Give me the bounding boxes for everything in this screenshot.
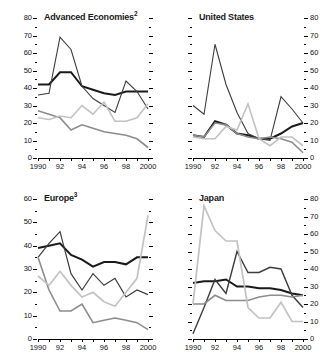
panel-title-text: Japan (199, 193, 224, 203)
x-tick-label: 2000 (132, 344, 164, 352)
x-tick-label: 2000 (287, 344, 319, 352)
series-line-2 (193, 252, 303, 334)
y-tick-label: 70 (310, 32, 329, 40)
y-tick-label: 70 (310, 213, 329, 221)
panel-title-text: Europe (44, 193, 74, 203)
y-tick-label: 20 (310, 119, 329, 127)
y-tick-label: 30 (310, 102, 329, 110)
panel-title-footnote-marker: 2 (134, 10, 137, 17)
y-tick-label: 60 (4, 195, 32, 203)
y-tick-label: 50 (310, 248, 329, 256)
y-tick-label: 50 (310, 67, 329, 75)
y-tick-label: 20 (4, 119, 32, 127)
series-line-3 (193, 123, 303, 153)
y-tick-label: 30 (310, 283, 329, 291)
y-tick-label: 40 (310, 265, 329, 273)
panel-europe-plot (0, 0, 329, 362)
y-tick-label: 80 (310, 14, 329, 22)
series-line-4 (38, 102, 148, 121)
panel-title-advanced-economies: Advanced Economies2 (44, 13, 137, 22)
panel-title-text: Advanced Economies (44, 12, 134, 22)
y-tick-label: 40 (310, 84, 329, 92)
y-tick-label: 30 (4, 102, 32, 110)
series-line-3 (38, 111, 148, 148)
y-tick-label: 20 (310, 300, 329, 308)
y-tick-label: 80 (310, 195, 329, 203)
panel-title-text: United States (199, 12, 254, 22)
y-tick-label: 10 (4, 312, 32, 320)
panel-title-united-states: United States (199, 13, 254, 22)
y-tick-label: 30 (4, 265, 32, 273)
y-tick-label: 10 (4, 137, 32, 145)
figure-container: Advanced Economies2010203040506070801990… (0, 0, 329, 362)
series-line-1 (193, 121, 303, 139)
panel-title-footnote-marker: 3 (74, 191, 77, 198)
panel-title-japan: Japan (199, 194, 224, 203)
y-tick-label: 50 (4, 67, 32, 75)
y-tick-label: 40 (4, 242, 32, 250)
series-line-4 (193, 104, 303, 146)
y-tick-label: 70 (4, 32, 32, 40)
y-tick-label: 50 (4, 218, 32, 226)
y-tick-label: 0 (310, 335, 329, 343)
series-line-2 (193, 44, 303, 140)
y-tick-label: 0 (310, 154, 329, 162)
series-line-2 (38, 37, 148, 112)
series-line-1 (38, 72, 148, 95)
y-tick-label: 10 (310, 137, 329, 145)
series-line-1 (38, 243, 148, 266)
panel-united-states-plot (0, 0, 329, 362)
y-tick-label: 60 (4, 49, 32, 57)
y-tick-label: 60 (310, 49, 329, 57)
y-tick-label: 0 (4, 154, 32, 162)
y-tick-label: 80 (4, 14, 32, 22)
x-tick-label: 2000 (132, 163, 164, 171)
series-line-2 (38, 232, 148, 297)
panel-advanced-economies-plot (0, 0, 329, 362)
series-line-4 (193, 206, 303, 322)
y-tick-label: 20 (4, 288, 32, 296)
y-tick-label: 10 (310, 318, 329, 326)
series-line-1 (193, 280, 303, 296)
series-line-4 (38, 215, 148, 306)
y-tick-label: 40 (4, 84, 32, 92)
y-tick-label: 0 (4, 335, 32, 343)
panel-japan-plot (0, 0, 329, 362)
series-line-3 (38, 257, 148, 329)
panel-title-europe: Europe3 (44, 194, 77, 203)
series-line-3 (193, 295, 303, 304)
y-tick-label: 60 (310, 230, 329, 238)
x-tick-label: 2000 (287, 163, 319, 171)
